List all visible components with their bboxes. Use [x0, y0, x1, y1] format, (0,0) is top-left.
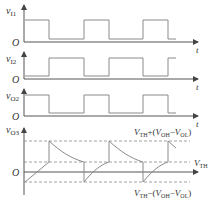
origin-vo2: O [12, 111, 19, 122]
panel-vi1: vI1 O t [6, 5, 199, 55]
t-label-vi1: t [196, 45, 199, 55]
panel-vo2: vO2 O t [6, 89, 199, 129]
origin-vo3: O [12, 167, 19, 178]
label-vo2: vO2 [6, 90, 20, 103]
origin-vi2: O [12, 74, 19, 85]
waveform-vo3 [25, 141, 176, 182]
t-label-vo2: t [196, 119, 199, 129]
waveform-vi2 [25, 58, 176, 76]
waveform-vo2 [25, 95, 176, 113]
label-lower-level: VTH−(VOH−VOL) [134, 188, 191, 199]
label-vi1: vI1 [6, 5, 17, 18]
panel-vi2: vI2 O t [6, 52, 199, 92]
origin-vi1: O [12, 37, 19, 48]
label-vo3: vO3 [6, 124, 20, 137]
panel-vo3: vO3 O VTH+(VOH−VOL) VTH VTH−(VOH−VOL) [6, 124, 208, 199]
t-label-vi2: t [196, 82, 199, 92]
label-vth: VTH [194, 158, 208, 169]
waveform-vi1 [25, 20, 176, 39]
label-upper-level: VTH+(VOH−VOL) [134, 127, 191, 138]
timing-diagram: vI1 O t vI2 O t vO2 O t vO3 O VTH+(VOH−V… [0, 0, 213, 205]
label-vi2: vI2 [6, 53, 17, 66]
